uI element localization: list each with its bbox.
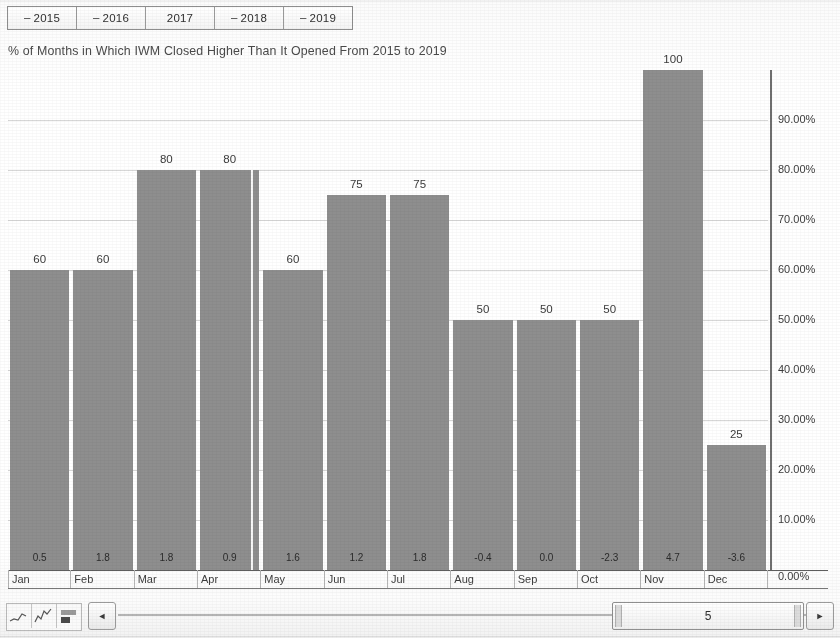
bar-Feb[interactable]	[73, 270, 132, 570]
bar-value-label-Oct: 50	[580, 303, 639, 315]
bar-Oct[interactable]	[580, 320, 639, 570]
horizontal-scrollbar-thumb[interactable]: 5	[612, 602, 804, 630]
y-tick-label-50: 50.00%	[778, 313, 815, 325]
bar-Aug[interactable]	[453, 320, 512, 570]
bottom-toolbar: ◄ 5 ►	[0, 594, 840, 638]
bar-value-label-May: 60	[263, 253, 322, 265]
bar-value-label-Feb: 60	[73, 253, 132, 265]
year-tab-2017[interactable]: 2017	[146, 7, 215, 29]
month-label-Dec: Dec	[705, 570, 768, 588]
bar-secondary-value-Jul: 1.8	[390, 552, 449, 563]
bar-Nov[interactable]	[643, 70, 702, 570]
y-tick-label-60: 60.00%	[778, 263, 815, 275]
bar-Sep[interactable]	[517, 320, 576, 570]
tab-dash-marker: –	[93, 12, 100, 24]
plot-area: 600.5601.8801.8800.9601.6751.2751.850-0.…	[0, 62, 840, 582]
bar-secondary-value-May: 1.6	[263, 552, 322, 563]
year-tab-2015[interactable]: –2015	[8, 7, 77, 29]
thumb-grip-left	[615, 605, 622, 627]
bar-secondary-value-Feb: 1.8	[73, 552, 132, 563]
bar-value-label-Jul: 75	[390, 178, 449, 190]
year-tab-2018[interactable]: –2018	[215, 7, 284, 29]
year-tab-label: 2016	[103, 12, 129, 24]
y-tick-label-10: 10.00%	[778, 513, 815, 525]
month-label-Oct: Oct	[578, 570, 641, 588]
y-tick-label-20: 20.00%	[778, 463, 815, 475]
month-label-Jan: Jan	[8, 570, 71, 588]
bar-secondary-value-Mar: 1.8	[137, 552, 196, 563]
bar-chart-icon[interactable]	[57, 604, 81, 628]
bar-value-label-Aug: 50	[453, 303, 512, 315]
scan-edge-artifact	[0, 0, 840, 4]
year-tab-label: 2017	[167, 12, 193, 24]
thumb-grip-right	[794, 605, 801, 627]
bar-value-label-Apr: 80	[200, 153, 259, 165]
chart-type-icon-group[interactable]	[6, 603, 82, 631]
line-chart-icon[interactable]	[7, 604, 32, 628]
tab-dash-marker: –	[300, 12, 307, 24]
y-axis-line	[770, 70, 772, 570]
bar-secondary-value-Aug: -0.4	[453, 552, 512, 563]
tab-dash-marker: –	[231, 12, 238, 24]
bar-May[interactable]	[263, 270, 322, 570]
bar-Mar[interactable]	[137, 170, 196, 570]
month-label-Jul: Jul	[388, 570, 451, 588]
axis-bottom-rule	[8, 588, 828, 589]
y-tick-label-40: 40.00%	[778, 363, 815, 375]
chart-screenshot: –2015–20162017–2018–2019 % of Months in …	[0, 0, 840, 638]
chart-title: % of Months in Which IWM Closed Higher T…	[8, 44, 447, 58]
y-tick-label-90: 90.00%	[778, 113, 815, 125]
page-bottom-rule	[0, 636, 840, 637]
y-tick-zero: 0.00%	[778, 570, 809, 582]
year-tab-strip[interactable]: –2015–20162017–2018–2019	[7, 6, 353, 30]
right-arrow-icon: ►	[816, 612, 825, 621]
bar-value-label-Sep: 50	[517, 303, 576, 315]
year-tab-2016[interactable]: –2016	[77, 7, 146, 29]
bar-value-label-Mar: 80	[137, 153, 196, 165]
selection-cursor-line	[251, 170, 253, 570]
bar-secondary-value-Dec: -3.6	[707, 552, 766, 563]
scroll-value-label: 5	[705, 609, 712, 623]
bar-Jul[interactable]	[390, 195, 449, 570]
month-label-Mar: Mar	[135, 570, 198, 588]
month-label-Apr: Apr	[198, 570, 261, 588]
month-label-Nov: Nov	[641, 570, 704, 588]
bar-Jun[interactable]	[327, 195, 386, 570]
area-chart-icon[interactable]	[32, 604, 57, 628]
bar-value-label-Jan: 60	[10, 253, 69, 265]
scroll-left-button[interactable]: ◄	[88, 602, 116, 630]
y-tick-label-80: 80.00%	[778, 163, 815, 175]
month-axis-row: JanFebMarAprMayJunJulAugSepOctNovDec	[8, 570, 768, 588]
y-tick-label-30: 30.00%	[778, 413, 815, 425]
bar-secondary-value-Oct: -2.3	[580, 552, 639, 563]
month-label-Aug: Aug	[451, 570, 514, 588]
month-label-Sep: Sep	[515, 570, 578, 588]
year-tab-2019[interactable]: –2019	[284, 7, 352, 29]
bar-value-label-Dec: 25	[707, 428, 766, 440]
bar-Jan[interactable]	[10, 270, 69, 570]
bar-value-label-Nov: 100	[643, 53, 702, 65]
bar-secondary-value-Jan: 0.5	[10, 552, 69, 563]
y-tick-label-70: 70.00%	[778, 213, 815, 225]
bar-secondary-value-Nov: 4.7	[643, 552, 702, 563]
year-tab-label: 2015	[34, 12, 60, 24]
tab-dash-marker: –	[24, 12, 31, 24]
left-arrow-icon: ◄	[98, 612, 107, 621]
bar-value-label-Jun: 75	[327, 178, 386, 190]
bar-secondary-value-Jun: 1.2	[327, 552, 386, 563]
bar-secondary-value-Sep: 0.0	[517, 552, 576, 563]
year-tab-label: 2019	[310, 12, 336, 24]
plot-inner: 600.5601.8801.8800.9601.6751.2751.850-0.…	[8, 62, 768, 570]
month-label-May: May	[261, 570, 324, 588]
month-label-Jun: Jun	[325, 570, 388, 588]
month-label-Feb: Feb	[71, 570, 134, 588]
year-tab-label: 2018	[241, 12, 267, 24]
scroll-right-button[interactable]: ►	[806, 602, 834, 630]
